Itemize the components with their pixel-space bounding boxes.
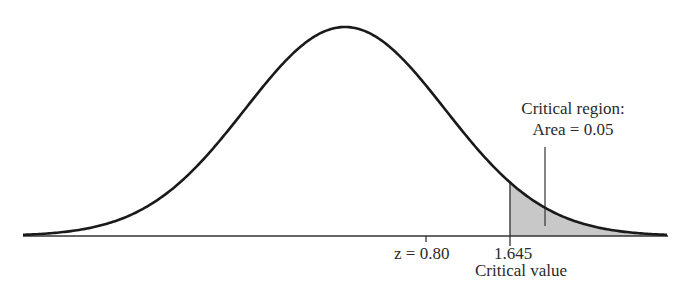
normal-curve-chart <box>0 0 682 303</box>
critical-region-label: Critical region: Area = 0.05 <box>498 100 648 139</box>
z-value-label: z = 0.80 <box>394 245 449 263</box>
critical-region-shading <box>510 182 669 236</box>
critical-region-title: Critical region: <box>498 100 648 118</box>
critical-region-area: Area = 0.05 <box>498 121 648 139</box>
critical-value-caption: Critical value <box>475 262 567 280</box>
